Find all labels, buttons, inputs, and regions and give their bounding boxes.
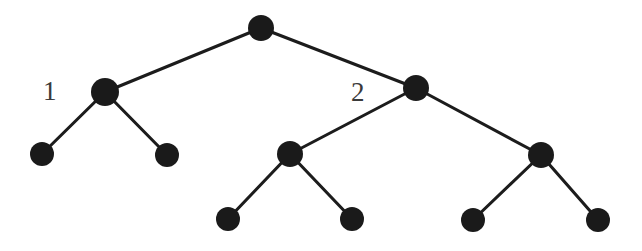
tree-edges-group [42, 28, 598, 220]
tree-node [528, 142, 554, 168]
tree-edge [416, 88, 541, 155]
tree-node [91, 78, 119, 106]
tree-edge [290, 154, 352, 219]
tree-edge [261, 28, 416, 88]
tree-node [216, 207, 240, 231]
tree-graphic [0, 0, 642, 251]
tree-edge [473, 155, 541, 220]
tree-edge [228, 154, 290, 219]
tree-node [586, 208, 610, 232]
tree-diagram-figure: 1 2 [0, 0, 642, 251]
tree-edge [105, 28, 261, 92]
tree-nodes-group [30, 15, 610, 232]
subtree-label-2: 2 [351, 79, 365, 106]
tree-node [248, 15, 274, 41]
tree-node [155, 143, 179, 167]
tree-node [403, 75, 429, 101]
tree-node [461, 208, 485, 232]
tree-node [30, 142, 54, 166]
tree-node [277, 141, 303, 167]
tree-node [340, 207, 364, 231]
subtree-label-1: 1 [43, 78, 57, 105]
